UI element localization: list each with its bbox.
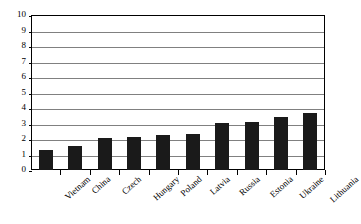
y-axis-tick-label: 10 xyxy=(8,10,26,19)
x-axis-label-ukraine: Ukraine xyxy=(297,174,325,201)
x-axis-label-lithuania: Lithuania xyxy=(328,174,360,205)
y-axis-tick-label: 4 xyxy=(8,103,26,112)
bar-china[interactable] xyxy=(68,146,82,170)
bar-lithuania[interactable] xyxy=(303,113,317,170)
bar-vietnam[interactable] xyxy=(39,150,53,170)
x-axis-label-estonia: Estonia xyxy=(267,174,294,199)
y-axis-tick-label: 7 xyxy=(8,57,26,66)
bar-russia[interactable] xyxy=(215,123,229,170)
y-axis-tick-label: 2 xyxy=(8,134,26,143)
x-axis-label-poland: Poland xyxy=(179,174,204,198)
y-axis-tick-label: 1 xyxy=(8,150,26,159)
y-axis-tick-label: 9 xyxy=(8,26,26,35)
x-axis-label-vietnam: Vietnam xyxy=(63,174,92,202)
y-axis-tick-label: 6 xyxy=(8,72,26,81)
x-axis-label-russia: Russia xyxy=(237,174,262,198)
x-axis-label-hungary: Hungary xyxy=(151,174,181,203)
y-axis-tick-label: 5 xyxy=(8,88,26,97)
bar-poland[interactable] xyxy=(156,135,170,170)
y-axis-tick-label: 3 xyxy=(8,119,26,128)
bar-ukraine[interactable] xyxy=(274,117,288,170)
bar-estonia[interactable] xyxy=(245,122,259,170)
bar-czech[interactable] xyxy=(98,138,112,170)
x-axis-label-china: China xyxy=(90,174,113,196)
y-axis-tick-label: 8 xyxy=(8,41,26,50)
x-axis-label-czech: Czech xyxy=(119,174,142,196)
bar-latvia[interactable] xyxy=(186,134,200,170)
bars-group xyxy=(31,15,325,170)
bar-hungary[interactable] xyxy=(127,137,141,170)
x-axis-label-latvia: Latvia xyxy=(208,174,232,197)
x-axis-labels: VietnamChinaCzechHungaryPolandLatviaRuss… xyxy=(0,170,341,224)
